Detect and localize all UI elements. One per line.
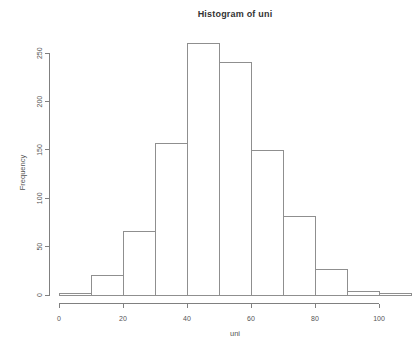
histogram-bars [59,44,411,295]
y-axis: 050100150200250 [36,47,50,297]
histogram-bar [123,231,155,295]
y-tick-label: 50 [36,243,43,251]
histogram-bar [251,151,283,295]
x-tick-label: 100 [373,315,385,322]
x-axis-title: uni [59,329,411,338]
y-tick-label: 100 [36,192,43,204]
plot-canvas: Histogram of uni 05010015020025002040608… [0,0,419,349]
y-tick-label: 250 [36,47,43,59]
histogram-bar [379,293,411,295]
x-tick-label: 40 [183,315,191,322]
histogram-bar [315,270,347,295]
histogram-bar [187,44,219,295]
histogram-bar [219,63,251,295]
histogram-bar [347,291,379,295]
y-tick-label: 0 [36,293,43,297]
histogram-bar [59,293,91,295]
y-tick-label: 150 [36,144,43,156]
histogram-bar [283,217,315,295]
x-tick-label: 60 [247,315,255,322]
x-tick-label: 80 [311,315,319,322]
histogram-plot: 050100150200250020406080100 [0,0,419,349]
x-axis: 020406080100 [57,304,385,323]
histogram-bar [155,143,187,295]
x-tick-label: 20 [119,315,127,322]
y-axis-title: Frequency [18,133,27,213]
y-tick-label: 200 [36,96,43,108]
x-tick-label: 0 [57,315,61,322]
histogram-bar [91,276,123,295]
